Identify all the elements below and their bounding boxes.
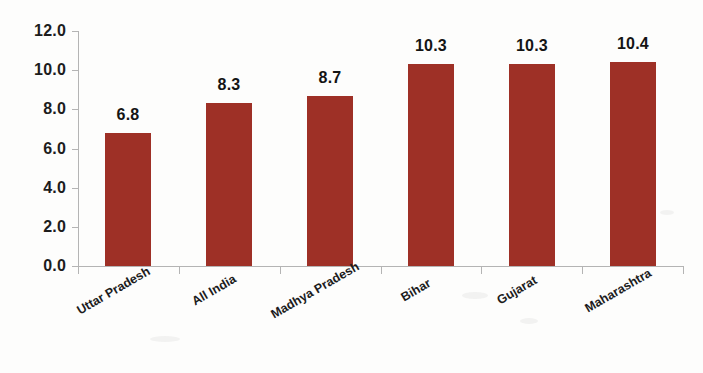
y-axis-tick-label: 0.0 — [2, 258, 66, 274]
paper-speck — [462, 292, 488, 299]
x-axis-category-label: Maharashtra — [583, 267, 654, 315]
y-axis-tick-label-wrap: 12.0 — [0, 31, 70, 32]
bar — [307, 96, 353, 266]
y-axis-tick — [72, 188, 79, 189]
x-axis-tick — [683, 266, 684, 274]
bar — [105, 133, 151, 266]
y-axis-tick-label-wrap: 4.0 — [0, 188, 70, 189]
bar — [610, 62, 656, 266]
x-axis-tick — [78, 266, 79, 274]
y-axis-tick — [72, 227, 79, 228]
x-axis-tick — [381, 266, 382, 274]
y-axis-tick-label: 6.0 — [2, 141, 66, 157]
bar-value-label: 10.3 — [391, 38, 471, 54]
bar — [206, 103, 252, 266]
bar-value-label: 6.8 — [88, 107, 168, 123]
y-axis-tick-label-wrap: 0.0 — [0, 266, 70, 267]
y-axis-tick — [72, 109, 79, 110]
paper-speck — [660, 210, 674, 215]
bar-chart: 0.02.04.06.08.010.012.0 6.88.38.710.310.… — [0, 0, 703, 373]
bar — [509, 64, 555, 266]
y-axis-tick-label-wrap: 6.0 — [0, 149, 70, 150]
bar-value-label: 10.3 — [492, 38, 572, 54]
x-axis-tick — [481, 266, 482, 274]
y-axis-tick-label: 10.0 — [2, 62, 66, 78]
y-axis-tick — [72, 31, 79, 32]
y-axis-tick-label: 4.0 — [2, 180, 66, 196]
y-axis-tick-label-wrap: 10.0 — [0, 70, 70, 71]
x-axis-category-label: Uttar Pradesh — [75, 265, 152, 317]
x-axis-category-label: Gujarat — [495, 274, 539, 307]
y-axis-tick-label: 8.0 — [2, 101, 66, 117]
y-axis-tick — [72, 70, 79, 71]
bar-value-label: 8.7 — [290, 70, 370, 86]
y-axis-tick-label: 2.0 — [2, 219, 66, 235]
x-axis-category-label: All India — [190, 273, 238, 308]
y-axis-tick-label-wrap: 2.0 — [0, 227, 70, 228]
y-axis-tick — [72, 149, 79, 150]
bar — [408, 64, 454, 266]
x-axis-category-label: Madhya Pradesh — [269, 260, 361, 320]
paper-speck — [150, 336, 180, 342]
bar-value-label: 10.4 — [593, 36, 673, 52]
x-axis-category-label: Bihar — [399, 277, 433, 304]
x-axis-tick — [179, 266, 180, 274]
y-axis-tick-label-wrap: 8.0 — [0, 109, 70, 110]
x-axis-tick — [582, 266, 583, 274]
paper-speck — [520, 318, 538, 324]
y-axis-tick-label: 12.0 — [2, 23, 66, 39]
bar-value-label: 8.3 — [189, 77, 269, 93]
x-axis-tick — [280, 266, 281, 274]
